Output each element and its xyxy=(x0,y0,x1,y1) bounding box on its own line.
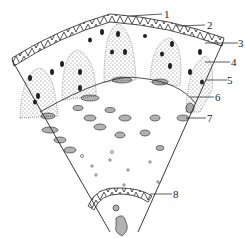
label-6: 6 xyxy=(215,91,221,103)
leader-1 xyxy=(130,14,162,16)
label-5: 5 xyxy=(227,74,233,86)
label-8: 8 xyxy=(173,188,179,200)
inner-layer xyxy=(88,188,152,210)
central-cell xyxy=(113,205,119,211)
central-hatched-mass xyxy=(116,216,128,236)
dotted-region xyxy=(20,68,58,118)
dotted-region xyxy=(150,38,181,86)
diagram: 1 2 3 4 5 6 7 8 xyxy=(0,0,245,238)
dotted-region xyxy=(104,24,136,82)
label-3: 3 xyxy=(238,37,244,49)
small-cells xyxy=(81,151,160,187)
label-1: 1 xyxy=(164,8,170,20)
label-7: 7 xyxy=(207,112,213,124)
dotted-region xyxy=(62,50,96,100)
label-2: 2 xyxy=(207,19,213,31)
label-4: 4 xyxy=(231,56,237,68)
